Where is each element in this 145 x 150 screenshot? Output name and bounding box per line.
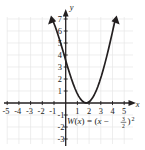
x-tick-label: -5 bbox=[3, 107, 10, 116]
y-tick-label: 6 bbox=[58, 27, 62, 36]
equation-exponent: 2 bbox=[132, 116, 135, 122]
x-tick-label: 3 bbox=[99, 107, 103, 116]
y-tick-label: -1 bbox=[58, 111, 65, 120]
svg-text:W(x)=(x−: W(x)=(x− bbox=[67, 116, 109, 126]
y-tick-label: 1 bbox=[58, 87, 62, 96]
x-tick-label: 2 bbox=[87, 107, 91, 116]
y-tick-label: -3 bbox=[58, 135, 65, 144]
equation-fraction-numerator: 3 bbox=[122, 116, 125, 122]
equation-equals: = bbox=[87, 116, 92, 126]
y-tick-label: 2 bbox=[58, 75, 62, 84]
equation-rhs-variable: x bbox=[97, 116, 102, 126]
x-tick-label: -3 bbox=[26, 107, 33, 116]
parabola-figure: -5 -4 -3 -2 -1 1 2 3 4 5 7 6 5 4 3 2 1 -… bbox=[0, 0, 145, 150]
x-tick-label: 1 bbox=[75, 107, 79, 116]
axis-arrowheads bbox=[63, 9, 136, 106]
y-tick-label: 5 bbox=[58, 39, 62, 48]
equation-fraction-denominator: 2 bbox=[122, 123, 125, 129]
y-tick-labels: 7 6 5 4 3 2 1 -1 -2 -3 bbox=[58, 15, 65, 144]
x-tick-label: 5 bbox=[122, 107, 126, 116]
y-axis-label: y bbox=[69, 3, 74, 12]
y-tick-label: 3 bbox=[58, 63, 62, 72]
y-tick-label: 7 bbox=[58, 15, 62, 24]
x-tick-label: 4 bbox=[110, 107, 115, 116]
x-tick-label: -2 bbox=[38, 107, 45, 116]
y-tick-label: 4 bbox=[58, 51, 63, 60]
y-tick-label: -2 bbox=[58, 123, 65, 132]
x-tick-label: -4 bbox=[14, 107, 22, 116]
y-axis-arrow bbox=[63, 9, 69, 17]
equation-rhs-close-paren: ) bbox=[128, 116, 131, 126]
equation-minus-sign: − bbox=[104, 116, 109, 126]
graph-canvas: -5 -4 -3 -2 -1 1 2 3 4 5 7 6 5 4 3 2 1 -… bbox=[0, 0, 145, 150]
equation-close-paren: ) bbox=[82, 116, 85, 126]
x-axis-label: x bbox=[135, 100, 140, 109]
left-branch-arrow bbox=[48, 16, 56, 25]
x-tick-label: -1 bbox=[49, 107, 56, 116]
